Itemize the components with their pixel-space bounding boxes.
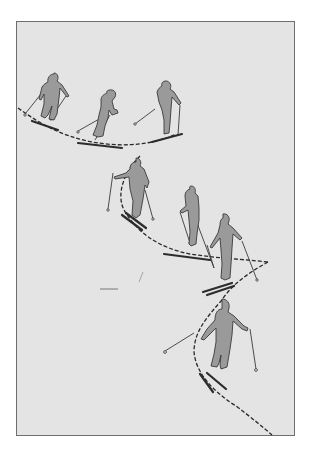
stray-marks: [100, 272, 143, 289]
skier-3: [134, 81, 182, 142]
skier-1: [24, 73, 69, 130]
ski-track: [18, 108, 272, 435]
skier-6: [203, 214, 258, 295]
ski-sequence-illustration: [0, 0, 311, 453]
skier-7: [164, 299, 258, 392]
skier-4: [107, 158, 154, 230]
skier-2: [77, 90, 122, 148]
